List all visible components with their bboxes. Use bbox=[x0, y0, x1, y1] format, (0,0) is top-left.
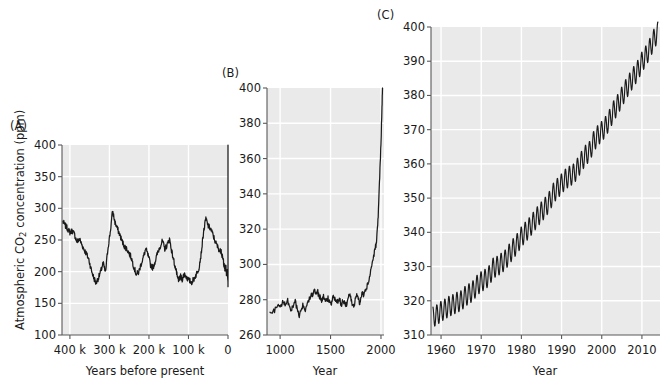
x-tick-label: 100 k bbox=[172, 343, 204, 357]
y-tick-label: 380 bbox=[385, 88, 425, 102]
y-tick-label: 340 bbox=[385, 225, 425, 239]
x-tick-label: 1980 bbox=[507, 343, 536, 357]
y-tick-label: 200 bbox=[16, 265, 56, 279]
y-tick-label: 400 bbox=[221, 81, 261, 95]
y-tick-label: 320 bbox=[221, 222, 261, 236]
y-tick-label: 260 bbox=[221, 328, 261, 342]
y-tick-label: 400 bbox=[16, 138, 56, 152]
y-tick-label: 390 bbox=[385, 54, 425, 68]
y-tick-label: 310 bbox=[385, 328, 425, 342]
y-tick-label: 350 bbox=[385, 191, 425, 205]
y-tick-label: 150 bbox=[16, 296, 56, 310]
panel-a-plot-area bbox=[62, 145, 228, 335]
y-tick-label: 300 bbox=[16, 201, 56, 215]
x-tick-label: 1000 bbox=[265, 343, 294, 357]
panel-c-chart bbox=[431, 27, 660, 335]
x-tick-label: 1500 bbox=[316, 343, 345, 357]
y-tick-label: 400 bbox=[385, 20, 425, 34]
x-tick-label: 400 k bbox=[54, 343, 86, 357]
y-axis-title-text: Atmospheric CO bbox=[13, 237, 27, 330]
y-tick-label: 360 bbox=[221, 152, 261, 166]
panel-a-x-axis-title: Years before present bbox=[86, 364, 204, 378]
x-tick-label: 1990 bbox=[547, 343, 576, 357]
y-tick-label: 370 bbox=[385, 123, 425, 137]
panel-b-label: (B) bbox=[222, 66, 239, 80]
x-tick-label: 200 k bbox=[133, 343, 165, 357]
x-tick-label: 2010 bbox=[627, 343, 656, 357]
x-tick-label: 300 k bbox=[93, 343, 125, 357]
x-tick-label: 2000 bbox=[587, 343, 616, 357]
y-tick-label: 100 bbox=[16, 328, 56, 342]
x-tick-label: 1960 bbox=[426, 343, 455, 357]
panel-b-chart bbox=[267, 88, 384, 335]
y-tick-label: 360 bbox=[385, 157, 425, 171]
panel-b-x-axis-title: Year bbox=[313, 364, 337, 378]
y-tick-label: 280 bbox=[221, 293, 261, 307]
y-tick-label: 340 bbox=[221, 187, 261, 201]
panel-c-x-axis-title: Year bbox=[533, 364, 557, 378]
y-tick-label: 380 bbox=[221, 116, 261, 130]
panel-a-chart bbox=[62, 145, 228, 335]
x-tick-label: 1970 bbox=[467, 343, 496, 357]
panel-c-plot-area bbox=[431, 27, 660, 335]
y-tick-label: 250 bbox=[16, 233, 56, 247]
y-tick-label: 300 bbox=[221, 257, 261, 271]
y-tick-label: 330 bbox=[385, 260, 425, 274]
y-tick-label: 320 bbox=[385, 294, 425, 308]
y-tick-label: 350 bbox=[16, 170, 56, 184]
x-tick-label: 2000 bbox=[366, 343, 395, 357]
x-tick-label: 0 bbox=[224, 343, 231, 357]
panel-b-plot-area bbox=[267, 88, 384, 335]
